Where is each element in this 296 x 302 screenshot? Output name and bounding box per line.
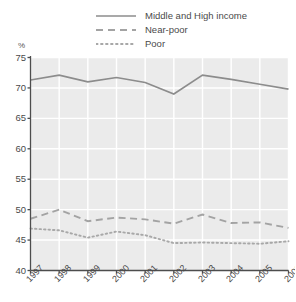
line-chart: Middle and High income Near-poor Poor % … [0, 0, 295, 302]
x-axis-tick-label: 2003 [196, 262, 217, 283]
x-axis-tick-label: 2006 [282, 262, 296, 283]
x-axis-tick-labels: 1997199819992000200120022003200420052006 [0, 0, 295, 302]
x-axis-tick-label: 2004 [224, 262, 245, 283]
x-axis-tick-label: 2000 [110, 262, 131, 283]
x-axis-tick-label: 2002 [167, 262, 188, 283]
x-axis-tick-label: 1998 [52, 262, 73, 283]
x-axis-tick-label: 1997 [24, 262, 45, 283]
x-axis-tick-label: 2001 [138, 262, 159, 283]
x-axis-tick-label: 1999 [81, 262, 102, 283]
x-axis-tick-label: 2005 [253, 262, 274, 283]
